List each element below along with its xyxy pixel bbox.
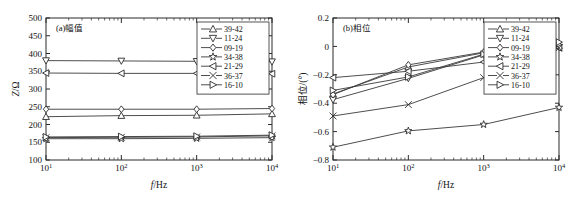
data-point-09-19-1000 — [194, 106, 199, 113]
x-tick-label: 103 — [191, 162, 203, 173]
legend-label: 39-42 — [224, 25, 243, 34]
y-tick-label: 500 — [29, 13, 43, 23]
y-tick-label: 400 — [29, 49, 43, 59]
y-tick-label: 0.2 — [318, 13, 329, 23]
x-tick-label: 101 — [327, 162, 339, 173]
legend-label: 36-37 — [224, 72, 243, 81]
series-34-38 — [329, 104, 562, 151]
y-tick-label: 250 — [29, 102, 43, 112]
panel-title: (b)相位 — [343, 23, 371, 33]
x-tick-label: 102 — [402, 162, 414, 173]
legend-label: 34-38 — [224, 53, 243, 62]
legend-label: 21-29 — [511, 62, 530, 71]
figure-container: 100150200250300350400450500101102103104(… — [0, 0, 574, 201]
svg-text:相位/(°): 相位/(°) — [297, 73, 309, 106]
series-39-42 — [43, 110, 276, 119]
x-tick-label: 103 — [478, 162, 490, 173]
data-point-21-29-100 — [118, 70, 124, 77]
y-tick-label: 450 — [29, 31, 43, 41]
chart-panel-b: −0.8−0.6−0.4−0.200.2101102103104(b)相位f/H… — [287, 0, 574, 201]
x-tick-label: 102 — [115, 162, 127, 173]
data-point-09-19-10000 — [269, 105, 274, 112]
legend-label: 09-19 — [511, 44, 530, 53]
y-tick-label: −0.4 — [313, 98, 330, 108]
data-point-34-38-1000 — [480, 121, 487, 128]
series-09-19 — [43, 105, 274, 113]
x-tick-label: 104 — [553, 162, 566, 173]
panel-title: (a)幅值 — [56, 23, 83, 33]
legend-label: 39-42 — [511, 25, 530, 34]
x-tick-label: 104 — [266, 162, 279, 173]
legend-label: 36-37 — [511, 72, 530, 81]
x-tick-label: 101 — [40, 162, 52, 173]
legend: 39-4211-2409-1934-3821-2936-3716-10 — [197, 22, 269, 94]
series-line-34-38 — [333, 107, 559, 147]
legend-label: 11-24 — [224, 34, 242, 43]
data-point-34-38-10 — [329, 143, 336, 150]
data-point-34-38-100 — [405, 127, 412, 134]
data-point-34-38-10000 — [555, 104, 562, 111]
legend-label: 21-29 — [224, 62, 243, 71]
legend-label: 16-10 — [224, 81, 243, 90]
chart-panel-a: 100150200250300350400450500101102103104(… — [0, 0, 287, 201]
y-tick-label: 150 — [29, 137, 43, 147]
data-point-09-19-100 — [119, 106, 124, 113]
y-tick-label: 0 — [325, 42, 330, 52]
legend-label: 16-10 — [511, 81, 530, 90]
y-tick-label: −0.6 — [313, 127, 330, 137]
series-line-09-19 — [46, 109, 272, 110]
y-axis-title: Z/Ω — [11, 82, 21, 97]
legend-label: 09-19 — [224, 44, 243, 53]
y-tick-label: 300 — [29, 84, 43, 94]
legend-label: 34-38 — [511, 53, 530, 62]
series-line-39-42 — [46, 114, 272, 117]
y-tick-label: −0.2 — [313, 70, 329, 80]
x-axis-title: f/Hz — [438, 180, 454, 190]
legend: 39-4211-2409-1934-3821-2936-3716-10 — [484, 22, 556, 94]
svg-text:Z/Ω: Z/Ω — [11, 82, 21, 97]
y-tick-label: 350 — [29, 66, 43, 76]
y-tick-label: 200 — [29, 120, 43, 130]
x-axis-title: f/Hz — [151, 180, 167, 190]
plot-area-b: −0.8−0.6−0.4−0.200.2101102103104(b)相位f/H… — [287, 0, 574, 201]
legend-label: 11-24 — [511, 34, 529, 43]
plot-area-a: 100150200250300350400450500101102103104(… — [0, 0, 287, 201]
y-axis-title: 相位/(°) — [297, 73, 309, 106]
